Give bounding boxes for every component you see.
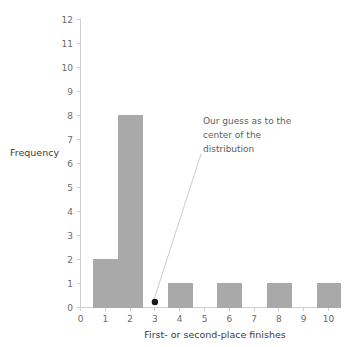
y-tick-label-11: 11 [62,39,73,49]
bar-x10 [317,283,342,308]
y-tick-label-3: 3 [67,231,73,241]
histogram-chart: 0 1 2 3 4 5 6 7 8 9 10 11 12 [0,0,353,347]
bar-x2 [118,115,143,308]
bar-x4 [168,283,193,308]
x-tick-label-2: 2 [127,314,133,324]
y-tick-label-5: 5 [67,183,73,193]
y-tick-label-7: 7 [67,135,73,145]
annotation-line-3: distribution [203,144,254,154]
bar-x8 [267,283,292,308]
x-tick-label-8: 8 [276,314,282,324]
y-tick-label-8: 8 [67,111,73,121]
y-axis-title: Frequency [10,147,59,158]
y-tick-label-12: 12 [62,15,73,25]
x-tick-label-9: 9 [301,314,307,324]
x-tick-label-1: 1 [102,314,108,324]
x-tick-label-0: 0 [78,314,84,324]
annotation-line-2: center of the [203,130,262,140]
chart-canvas: 0 1 2 3 4 5 6 7 8 9 10 11 12 [0,0,353,347]
y-tick-label-9: 9 [67,87,73,97]
y-tick-label-4: 4 [67,207,73,217]
x-tick-label-4: 4 [177,314,183,324]
bar-x1 [93,259,118,308]
center-guess-marker [152,299,158,305]
x-tick-label-6: 6 [226,314,232,324]
x-tick-label-5: 5 [202,314,208,324]
annotation-line-1: Our guess as to the [203,116,292,126]
x-axis-title: First- or second-place finishes [144,329,286,340]
y-tick-label-6: 6 [67,159,73,169]
y-tick-label-1: 1 [67,279,73,289]
y-tick-label-10: 10 [62,63,74,73]
x-tick-label-7: 7 [251,314,257,324]
x-tick-label-3: 3 [152,314,158,324]
bar-x6 [217,283,242,308]
x-tick-label-10: 10 [323,314,335,324]
y-tick-label-2: 2 [67,255,73,265]
y-tick-label-0: 0 [67,303,73,313]
